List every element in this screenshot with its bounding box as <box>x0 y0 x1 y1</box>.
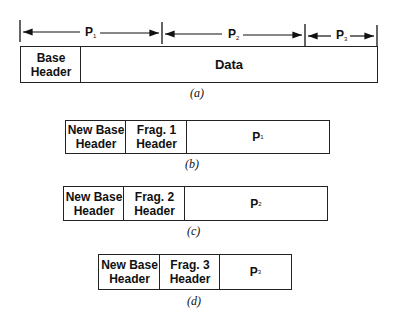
caption-d: (d) <box>187 294 201 309</box>
frag-header-cell: Frag. 3 Header <box>160 255 220 289</box>
dimension-label-p1: P1 <box>85 25 96 39</box>
new-base-header-cell: New Base Header <box>64 187 124 220</box>
payload-cell: P2 <box>185 187 327 220</box>
base-header-cell: Base Header <box>21 47 81 82</box>
payload-cell: P3 <box>220 255 291 289</box>
fragment-3-packet: New Base Header Frag. 3 Header P3 <box>98 254 292 290</box>
fragment-2-packet: New Base Header Frag. 2 Header P2 <box>63 186 328 221</box>
caption-a: (a) <box>190 86 204 101</box>
frag-header-cell: Frag. 1 Header <box>126 121 187 153</box>
dimension-label-p3: P3 <box>336 28 347 42</box>
dimension-label-p2: P2 <box>228 27 239 41</box>
new-base-header-cell: New Base Header <box>66 121 126 153</box>
payload-cell: P1 <box>187 121 329 153</box>
new-base-header-cell: New Base Header <box>99 255 160 289</box>
original-packet: Base Header Data <box>20 46 378 83</box>
frag-header-cell: Frag. 2 Header <box>124 187 185 220</box>
caption-c: (c) <box>187 224 200 239</box>
data-cell: Data <box>81 47 377 82</box>
caption-b: (b) <box>185 157 199 172</box>
fragment-1-packet: New Base Header Frag. 1 Header P1 <box>65 120 330 154</box>
